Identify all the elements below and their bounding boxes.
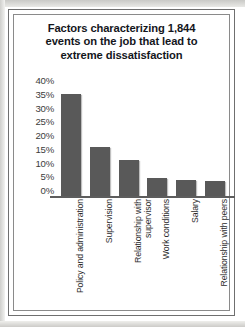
y-axis-tick-20: 20% <box>20 131 54 141</box>
y-axis-tick-0: 0% <box>20 186 54 196</box>
y-axis-tick-25: 25% <box>20 117 54 127</box>
scan-edge-left <box>0 0 5 327</box>
bar-3 <box>119 160 139 196</box>
x-axis-line <box>50 196 235 198</box>
bar-4 <box>147 178 167 196</box>
y-axis-tick-5: 5% <box>20 172 54 182</box>
bar-1 <box>61 94 81 196</box>
bar-2 <box>90 147 110 197</box>
bar-series <box>57 86 229 196</box>
bar-5 <box>176 180 196 197</box>
y-axis-tick-40: 40% <box>20 76 54 86</box>
chart-inner-frame: Factors characterizing 1,844 events on t… <box>13 14 230 311</box>
chart-outer-frame: Factors characterizing 1,844 events on t… <box>8 9 235 316</box>
y-axis-tick-labels: 40%35%30%25%20%15%10%5%0% <box>20 81 54 191</box>
x-axis-label-6: Relationship with peers <box>220 199 245 287</box>
page-root: Factors characterizing 1,844 events on t… <box>0 0 245 327</box>
y-axis-tick-35: 35% <box>20 90 54 100</box>
plot-area: 40%35%30%25%20%15%10%5%0% Policy and adm… <box>14 15 229 310</box>
scan-edge-bottom <box>0 321 245 327</box>
x-axis-category-labels: Policy and administrationSupervisionRela… <box>57 199 229 313</box>
scan-edge-top <box>0 0 245 7</box>
bar-6 <box>205 181 225 196</box>
y-axis-tick-10: 10% <box>20 159 54 169</box>
y-axis-tick-30: 30% <box>20 104 54 114</box>
y-axis-tick-15: 15% <box>20 145 54 155</box>
